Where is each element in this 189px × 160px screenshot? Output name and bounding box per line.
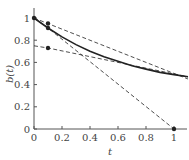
y-tick-label: 0.6 — [14, 57, 30, 68]
data-point-marker — [32, 16, 36, 20]
y-tick-label: 0 — [24, 124, 30, 135]
y-tick-label: 1 — [24, 13, 30, 24]
y-axis-label: b(t) — [4, 65, 15, 83]
x-tick-label: 0.8 — [138, 132, 154, 143]
dashed-line — [34, 46, 188, 77]
data-point-marker — [46, 46, 50, 50]
chart: 00.20.40.60.8100.20.40.60.81 t b(t) — [0, 0, 189, 160]
x-tick-label: 0.4 — [82, 132, 98, 143]
axes: 00.20.40.60.8100.20.40.60.81 — [14, 8, 187, 143]
x-tick-label: 0.6 — [110, 132, 126, 143]
x-tick-label: 1 — [171, 132, 177, 143]
data-markers — [32, 16, 176, 131]
y-tick-label: 0.8 — [14, 35, 30, 46]
data-point-marker — [172, 127, 176, 131]
x-tick-label: 0 — [31, 132, 37, 143]
y-tick-label: 0.2 — [14, 101, 30, 112]
data-point-marker — [46, 21, 50, 25]
x-axis-label: t — [108, 146, 113, 157]
series-lines — [34, 18, 188, 129]
dashed-line — [34, 18, 188, 79]
x-tick-label: 0.2 — [54, 132, 70, 143]
y-tick-label: 0.4 — [14, 79, 30, 90]
dashed-line — [34, 18, 174, 129]
data-point-marker — [46, 26, 50, 30]
curve-line — [34, 18, 188, 77]
